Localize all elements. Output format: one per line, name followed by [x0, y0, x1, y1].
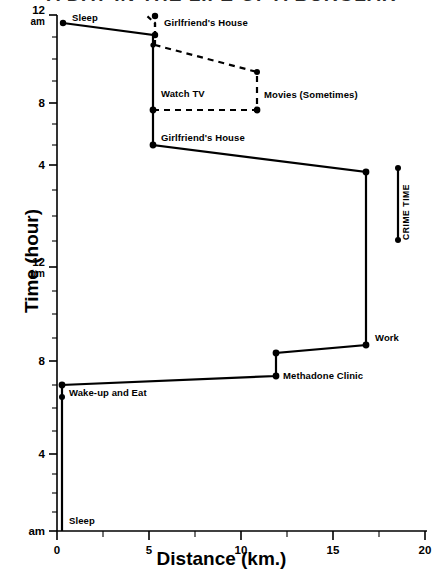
annotation-movies-sometimes: Movies (Sometimes)	[264, 89, 358, 100]
marker-return-from-work	[363, 169, 370, 176]
marker-movies-sometimes	[254, 107, 261, 114]
marker-clinic-depart	[273, 350, 280, 357]
annotation-work: Work	[375, 332, 400, 343]
annotation-sleep-top: Sleep	[72, 12, 98, 23]
marker-girlfriends-house-top-a	[152, 13, 158, 19]
chart-root: A DAY IN THE LIFE OF A BURGLAR	[0, 0, 443, 581]
y-tick-label-12am-sub: am	[31, 16, 46, 27]
y-axis-title: Time (hour)	[21, 186, 43, 336]
y-tick-label-am: am	[28, 525, 45, 537]
annotation-wake-up-and-eat: Wake-up and Eat	[69, 387, 147, 398]
marker-movies-end	[254, 69, 260, 75]
y-tick-label-4pm: 4	[39, 159, 46, 171]
marker-girlfriends-house-mid	[150, 142, 157, 149]
marker-sleep-top	[60, 20, 66, 26]
annotation-sleep-bottom: Sleep	[69, 515, 95, 526]
marker-route-bend	[150, 42, 155, 47]
annotation-watch-tv: Watch TV	[161, 88, 205, 99]
data-point-markers	[59, 13, 370, 400]
annotation-crime-time: CRIME TIME	[401, 184, 411, 240]
annotation-girlfriends-house-mid: Girlfriend's House	[161, 132, 245, 143]
series-alternate-route	[153, 45, 257, 110]
chart-canvas: 12 am 8 4 12 pm 8 4 am 0 5 10 15 20	[0, 0, 443, 581]
annotation-girlfriends-house-top: Girlfriend's House	[164, 17, 248, 28]
y-tick-label-8pm: 8	[39, 97, 46, 109]
marker-work	[363, 342, 370, 349]
y-tick-label-12am-main: 12	[32, 4, 45, 16]
marker-methadone-clinic	[273, 373, 280, 380]
x-axis	[57, 531, 427, 540]
annotation-methadone-clinic: Methadone Clinic	[283, 370, 363, 381]
y-tick-label-8am: 8	[39, 355, 46, 367]
marker-watch-tv	[150, 107, 157, 114]
x-axis-title: Distance (km.)	[0, 548, 443, 570]
y-tick-label-4am: 4	[39, 448, 46, 460]
y-axis	[49, 15, 57, 531]
marker-wake-up-and-eat	[59, 382, 66, 389]
marker-wake-up-start	[59, 394, 65, 400]
crime-time-start-marker	[395, 165, 401, 171]
marker-girlfriends-house-top-b	[152, 32, 158, 38]
